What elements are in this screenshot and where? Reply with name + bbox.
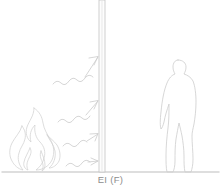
heat-arrow-1: [53, 57, 98, 85]
wall-classification-label: EI (F): [0, 174, 221, 186]
diagram-canvas: [0, 0, 221, 193]
heat-arrow-2: [58, 101, 98, 123]
heat-arrow-3: [63, 134, 98, 147]
fire-wall-diagram: EI (F): [0, 0, 221, 193]
person-silhouette: [160, 60, 196, 172]
heat-arrow-4: [66, 158, 98, 167]
fire-wall: [99, 0, 105, 172]
flame-icon: [10, 108, 60, 171]
